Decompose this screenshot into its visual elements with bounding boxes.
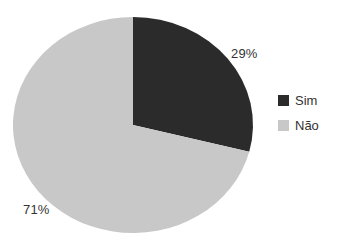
- slice-label-nao: 71%: [23, 202, 50, 217]
- legend-label-nao: Não: [295, 119, 319, 132]
- pie-chart: 29% 71% Sim Não: [0, 0, 340, 246]
- legend-swatch-nao-icon: [278, 120, 289, 131]
- legend-label-sim: Sim: [295, 94, 317, 107]
- legend-item-nao: Não: [278, 119, 319, 132]
- legend: Sim Não: [278, 94, 319, 144]
- legend-swatch-sim-icon: [278, 95, 289, 106]
- pie-slices-group: [13, 17, 253, 233]
- slice-label-sim: 29%: [231, 46, 258, 61]
- legend-item-sim: Sim: [278, 94, 319, 107]
